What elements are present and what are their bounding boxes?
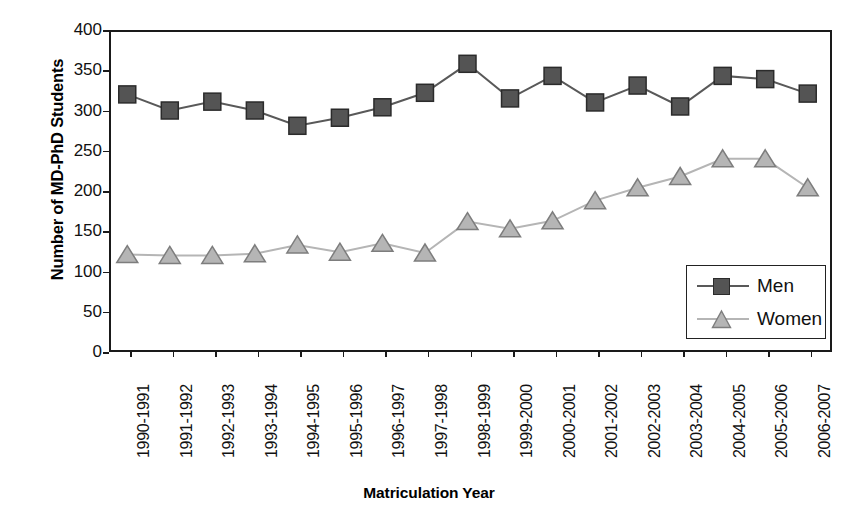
x-axis-tick-mark: [556, 352, 558, 357]
x-axis-tick-mark: [215, 352, 217, 357]
legend-label-men: Men: [757, 274, 794, 298]
x-axis-title: Matriculation Year: [0, 484, 858, 502]
x-axis-tick-mark: [513, 352, 515, 357]
x-axis-tick-label: 1996-1997: [391, 384, 407, 458]
x-axis-tick-label: 1998-1999: [477, 384, 493, 458]
x-axis-tick-mark: [726, 352, 728, 357]
x-axis-tick-mark: [471, 352, 473, 357]
x-axis-tick-label: 2002-2003: [647, 384, 663, 458]
y-axis-tick-label: 0: [56, 343, 102, 360]
legend-swatch-women: [695, 303, 751, 335]
y-axis-tick-label: 50: [56, 303, 102, 320]
legend-item-men[interactable]: Men: [687, 270, 827, 302]
y-axis-tick-mark: [103, 30, 109, 32]
legend-label-women: Women: [757, 307, 822, 331]
chart-container: Number of MD-PhD Students 40035030025020…: [0, 0, 858, 524]
x-axis-tick-mark: [428, 352, 430, 357]
x-axis-tick-mark: [343, 352, 345, 357]
x-axis-tick-label: 2005-2006: [774, 384, 790, 458]
y-axis-tick-label: 200: [56, 182, 102, 199]
x-axis-tick-label: 1997-1998: [434, 384, 450, 458]
y-axis-tick-mark: [103, 352, 109, 354]
y-axis-tick-labels: 400350300250200150100500: [48, 0, 102, 524]
y-axis-tick-label: 150: [56, 222, 102, 239]
x-axis-tick-mark: [598, 352, 600, 357]
x-axis-tick-label: 2004-2005: [732, 384, 748, 458]
x-axis-tick-mark: [300, 352, 302, 357]
y-axis-tick-mark: [103, 312, 109, 314]
x-axis-tick-mark: [130, 352, 132, 357]
x-axis-tick-label: 1995-1996: [349, 384, 365, 458]
y-axis-tick-mark: [103, 191, 109, 193]
y-axis-tick-label: 100: [56, 263, 102, 280]
x-axis-tick-mark: [258, 352, 260, 357]
y-axis-tick-label: 250: [56, 142, 102, 159]
x-axis-tick-label: 2001-2002: [604, 384, 620, 458]
x-axis-tick-label: 1993-1994: [264, 384, 280, 458]
legend-swatch-men: [695, 270, 751, 302]
x-axis-tick-label: 2000-2001: [562, 384, 578, 458]
triangle-marker-icon: [711, 309, 732, 330]
x-axis-tick-mark: [683, 352, 685, 357]
square-marker-icon: [713, 278, 730, 295]
x-axis-tick-label: 2006-2007: [817, 384, 833, 458]
x-axis-tick-mark: [768, 352, 770, 357]
x-axis-tick-label: 1999-2000: [519, 384, 535, 458]
y-axis-tick-label: 350: [56, 61, 102, 78]
y-axis-tick-mark: [103, 231, 109, 233]
x-axis-tick-mark: [641, 352, 643, 357]
legend: Men Women: [686, 265, 826, 339]
x-axis-tick-mark: [385, 352, 387, 357]
x-axis-tick-label: 1990-1991: [136, 384, 152, 458]
x-axis-tick-mark: [811, 352, 813, 357]
y-axis-tick-mark: [103, 111, 109, 113]
y-axis-tick-mark: [103, 272, 109, 274]
y-axis-tick-label: 400: [56, 21, 102, 38]
x-axis-tick-label: 2003-2004: [689, 384, 705, 458]
legend-item-women[interactable]: Women: [687, 303, 827, 335]
x-axis-tick-label: 1994-1995: [306, 384, 322, 458]
x-axis-tick-label: 1991-1992: [179, 384, 195, 458]
y-axis-tick-mark: [103, 151, 109, 153]
x-axis-tick-mark: [173, 352, 175, 357]
y-axis-tick-label: 300: [56, 102, 102, 119]
y-axis-tick-mark: [103, 70, 109, 72]
x-axis-tick-label: 1992-1993: [221, 384, 237, 458]
